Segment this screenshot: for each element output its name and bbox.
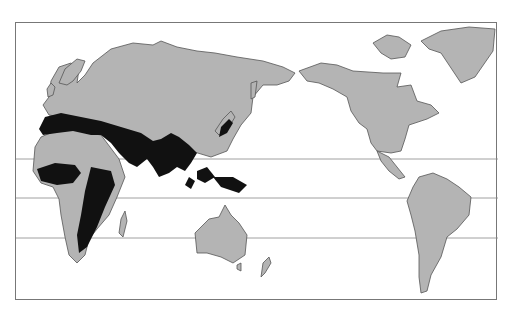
continent-north-america (299, 27, 495, 179)
world-map (15, 22, 497, 300)
continent-oceania (195, 205, 271, 277)
continent-south-america (407, 173, 471, 293)
cropped-caption-text (0, 0, 510, 6)
map-svg (16, 23, 498, 301)
